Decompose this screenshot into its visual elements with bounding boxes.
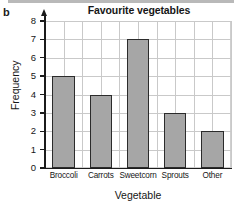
gridline-vertical xyxy=(119,21,120,168)
x-axis-tick-label: Carrots xyxy=(82,172,119,180)
y-axis-tick xyxy=(40,39,45,40)
y-axis-tick xyxy=(40,131,45,132)
y-axis-tick-label: 6 xyxy=(22,53,36,63)
y-axis-tick-label: 3 xyxy=(22,108,36,118)
figure-container: b Favourite vegetables 012345678 Broccol… xyxy=(0,0,234,209)
bar-broccoli xyxy=(52,76,74,168)
x-axis-tick-label: Broccoli xyxy=(45,172,82,180)
y-axis-tick xyxy=(40,112,45,113)
y-axis-tick-label: 8 xyxy=(22,16,36,26)
y-axis-tick-label-wrap: 6 xyxy=(22,53,36,63)
bar-sweetcorn xyxy=(127,39,149,168)
bar-carrots xyxy=(90,95,112,169)
y-axis-tick xyxy=(40,57,45,58)
y-axis-tick xyxy=(40,20,45,21)
y-axis-tick xyxy=(40,94,45,95)
gridline-vertical xyxy=(231,21,232,168)
y-axis-tick-label: 0 xyxy=(22,163,36,173)
y-axis-tick xyxy=(40,75,45,76)
x-axis-title: Vegetable xyxy=(45,190,231,201)
x-axis-tick-label: Other xyxy=(194,172,231,180)
y-axis-title: Frequency xyxy=(10,40,21,130)
x-axis-tick-label: Sweetcorn xyxy=(119,172,156,180)
y-axis-tick-label-wrap: 1 xyxy=(22,145,36,155)
y-axis-tick-label: 7 xyxy=(22,34,36,44)
y-axis-tick-label-wrap: 2 xyxy=(22,126,36,136)
y-axis-tick xyxy=(40,167,45,168)
y-axis-line xyxy=(44,14,46,169)
bar-other xyxy=(201,131,223,168)
gridline-vertical xyxy=(194,21,195,168)
y-axis-tick-label-wrap: 5 xyxy=(22,71,36,81)
gridline-vertical xyxy=(82,21,83,168)
part-label-b: b xyxy=(3,7,10,18)
y-axis-tick xyxy=(40,149,45,150)
bar-sprouts xyxy=(164,113,186,168)
y-axis-tick-label-wrap: 0 xyxy=(22,163,36,173)
y-axis-tick-label: 4 xyxy=(22,90,36,100)
gridline-vertical xyxy=(157,21,158,168)
y-axis-tick-label-wrap: 4 xyxy=(22,90,36,100)
y-axis-tick-label: 1 xyxy=(22,145,36,155)
scan-artifact-strip xyxy=(8,0,234,3)
x-axis-tick-label: Sprouts xyxy=(157,172,194,180)
y-axis-tick-label-wrap: 3 xyxy=(22,108,36,118)
y-axis-tick-label: 2 xyxy=(22,126,36,136)
y-axis-tick-label: 5 xyxy=(22,71,36,81)
y-axis-tick-label-wrap: 8 xyxy=(22,16,36,26)
chart-title: Favourite vegetables xyxy=(44,5,234,16)
y-axis-tick-label-wrap: 7 xyxy=(22,34,36,44)
